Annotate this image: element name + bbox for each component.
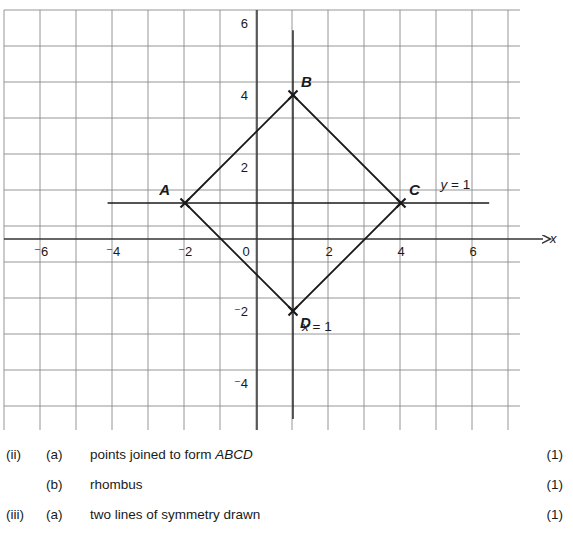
- svg-text:2: 2: [325, 244, 332, 259]
- svg-text:x = 1: x = 1: [301, 319, 332, 334]
- answer-letter: (a): [46, 500, 76, 530]
- svg-text:6: 6: [241, 16, 248, 31]
- answer-text-plain: rhombus: [90, 477, 143, 492]
- answer-row: (b) rhombus (1): [0, 470, 573, 500]
- svg-text:B: B: [301, 73, 312, 90]
- answer-letter: (b): [46, 470, 76, 500]
- vertex-labels: ABCD: [158, 73, 421, 331]
- answer-mark: (1): [547, 470, 564, 500]
- answer-row: (iii) (a) two lines of symmetry drawn (1…: [0, 500, 573, 530]
- gridlines: [4, 10, 520, 430]
- answer-mark: (1): [547, 440, 564, 470]
- answer-text-plain: two lines of symmetry drawn: [90, 507, 260, 522]
- svg-text:4: 4: [397, 244, 404, 259]
- answer-text-italic: ABCD: [215, 447, 253, 462]
- svg-text:6: 6: [469, 244, 476, 259]
- axes: [4, 10, 543, 430]
- answer-row: (ii) (a) points joined to form ABCD (1): [0, 440, 573, 470]
- answer-text: rhombus: [90, 470, 513, 500]
- svg-text:⁻6: ⁻6: [34, 244, 48, 259]
- answer-mark: (1): [547, 500, 564, 530]
- answer-text: points joined to form ABCD: [90, 440, 513, 470]
- svg-text:⁻2: ⁻2: [178, 244, 192, 259]
- svg-text:y = 1: y = 1: [440, 177, 471, 192]
- graph-svg: ⁻6⁻4⁻20246642⁻2⁻4x ABCD y = 1x = 1: [0, 0, 573, 440]
- svg-text:C: C: [409, 181, 421, 198]
- svg-text:A: A: [158, 181, 170, 198]
- svg-text:4: 4: [241, 88, 248, 103]
- answer-letter: (a): [46, 440, 76, 470]
- svg-text:2: 2: [241, 160, 248, 175]
- answer-number: (iii): [6, 500, 42, 530]
- answer-list: (ii) (a) points joined to form ABCD (1) …: [0, 440, 573, 535]
- svg-text:⁻2: ⁻2: [234, 304, 248, 319]
- answer-text-plain: points joined to form: [90, 447, 215, 462]
- answer-text: two lines of symmetry drawn: [90, 500, 513, 530]
- coordinate-graph: ⁻6⁻4⁻20246642⁻2⁻4x ABCD y = 1x = 1: [0, 0, 573, 440]
- answer-number: (ii): [6, 440, 42, 470]
- svg-text:0: 0: [242, 244, 249, 259]
- svg-text:⁻4: ⁻4: [106, 244, 120, 259]
- symmetry-lines: [108, 30, 490, 419]
- svg-text:x: x: [549, 231, 557, 246]
- svg-text:⁻4: ⁻4: [234, 376, 248, 391]
